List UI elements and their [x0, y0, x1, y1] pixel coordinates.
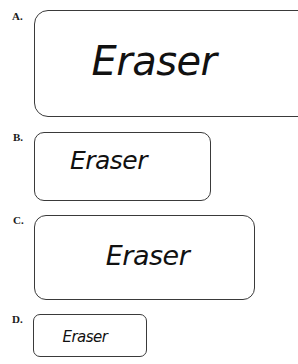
option-d-label: D.	[12, 313, 23, 325]
option-a-box[interactable]: Eraser	[34, 10, 298, 117]
option-a-label: A.	[12, 10, 23, 22]
option-d-text: Eraser	[62, 328, 107, 346]
option-b-label: B.	[13, 131, 23, 143]
option-b-box[interactable]: Eraser	[34, 132, 211, 201]
option-a-text: Eraser	[91, 38, 216, 84]
option-b-text: Eraser	[70, 146, 147, 175]
option-c-box[interactable]: Eraser	[34, 215, 255, 300]
option-c-text: Eraser	[106, 240, 189, 271]
option-c-label: C.	[13, 214, 24, 226]
option-d-box[interactable]: Eraser	[33, 314, 147, 357]
